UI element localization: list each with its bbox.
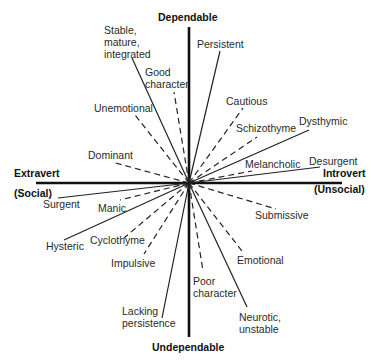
label-desurgent: Desurgent [309, 155, 357, 167]
label-neurotic-unstable: Neurotic, unstable [239, 311, 281, 335]
label-impulsive: Impulsive [111, 257, 155, 269]
axis-label-unsocial: (Unsocial) [314, 182, 365, 196]
label-cyclothyme: Cyclothyme [90, 234, 145, 246]
label-cautious: Cautious [226, 95, 267, 107]
label-hysteric: Hysteric [46, 240, 84, 252]
label-good-character: Good character [145, 66, 189, 90]
dashed-line [189, 183, 203, 271]
label-emotional: Emotional [237, 254, 284, 266]
dashed-line [189, 183, 276, 209]
label-unemotional: Unemotional [94, 102, 153, 114]
label-poor-character: Poor character [193, 275, 237, 299]
label-persistent: Persistent [197, 38, 244, 50]
axis-label-extravert: Extravert [14, 166, 60, 180]
diagram-lines [0, 0, 371, 361]
label-melancholic: Melancholic [245, 158, 300, 170]
label-surgent: Surgent [43, 198, 80, 210]
axis-label-dependable: Dependable [158, 10, 218, 24]
dashed-line [174, 92, 189, 183]
axis-label-introvert: Introvert [323, 166, 366, 180]
label-schizothyme: Schizothyme [236, 122, 296, 134]
axis-label-undependable: Undependable [152, 340, 224, 354]
label-dominant: Dominant [88, 149, 133, 161]
dashed-line [189, 108, 243, 183]
label-stable-mature-integrated: Stable, mature, integrated [104, 24, 151, 60]
label-lacking-persistence: Lacking persistence [122, 305, 176, 329]
label-manic: Manic [98, 202, 126, 214]
dashed-line [112, 162, 189, 183]
label-submissive: Submissive [255, 209, 309, 221]
solid-line [189, 130, 309, 183]
solid-line [189, 51, 220, 183]
solid-line [58, 183, 189, 198]
label-dysthymic: Dysthymic [299, 115, 347, 127]
